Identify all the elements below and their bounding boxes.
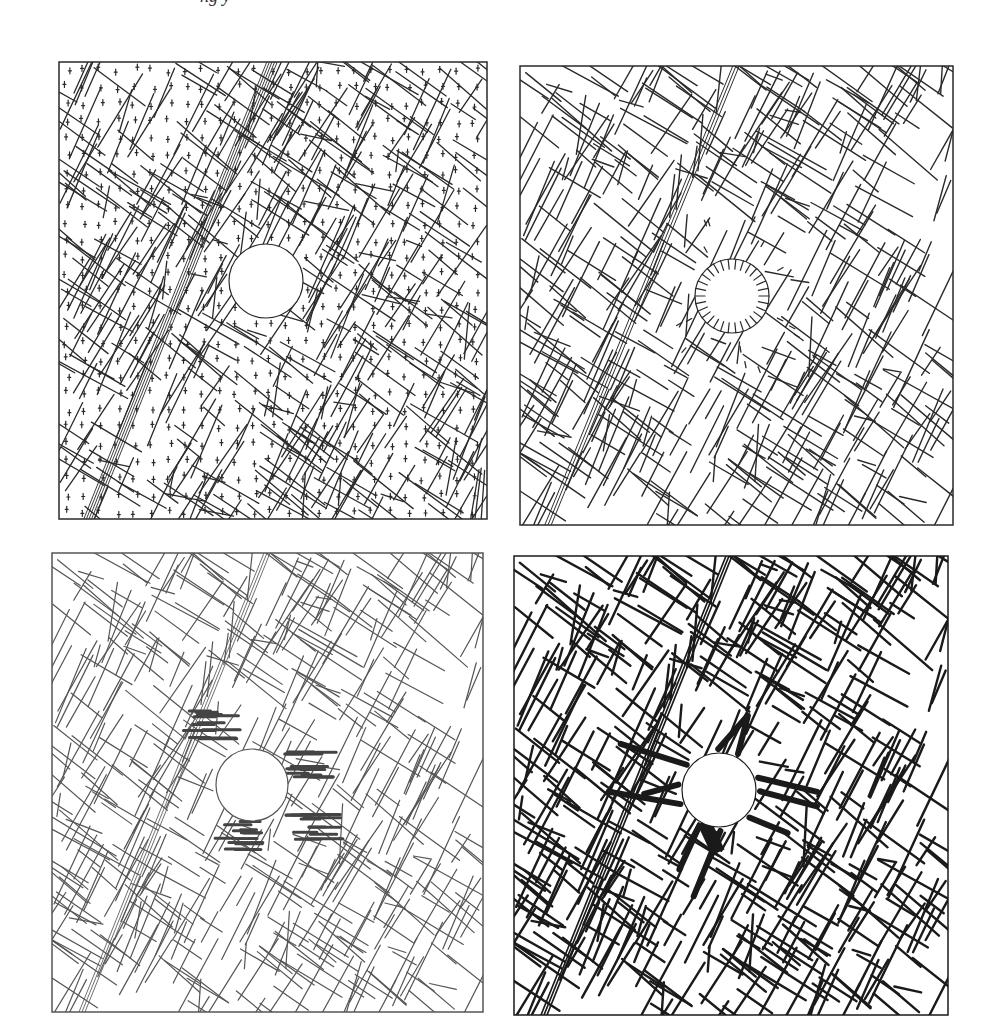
panel-d-joint-stresses — [514, 556, 948, 1015]
joint-network — [20, 522, 506, 1021]
joint-network — [488, 35, 976, 563]
panel-c-slip-zones — [52, 553, 483, 1012]
tunnel-excavation — [695, 259, 769, 333]
tunnel-excavation — [229, 244, 303, 318]
joint-network — [482, 525, 971, 1021]
cropped-caption: ng y — [200, 0, 800, 6]
tunnel-excavation — [682, 753, 756, 827]
panel-b-displacement-vectors — [520, 66, 953, 525]
panel-a-velocity-field — [59, 62, 487, 519]
joint-network — [31, 30, 519, 555]
tunnel-excavation — [216, 749, 288, 821]
